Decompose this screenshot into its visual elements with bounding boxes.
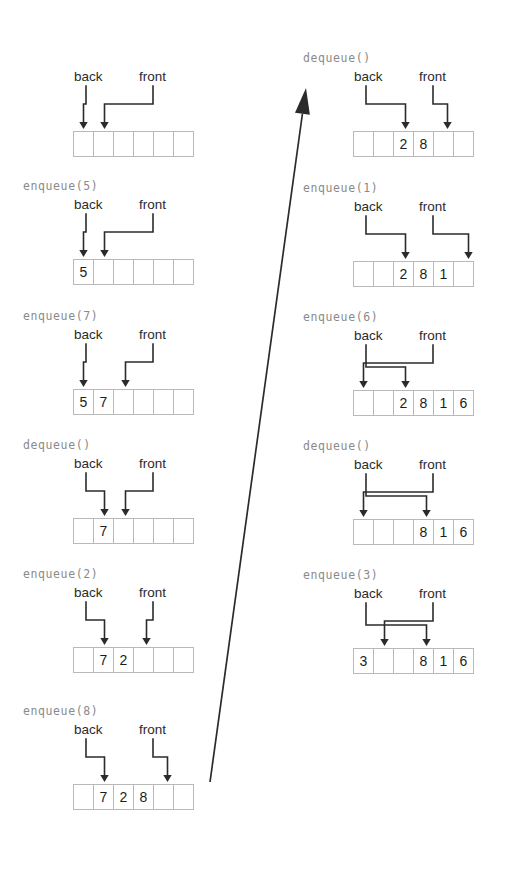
queue-cell <box>174 132 194 157</box>
queue-cell: 1 <box>434 391 454 416</box>
queue-cell: 2 <box>394 391 414 416</box>
queue-cell <box>394 649 414 674</box>
queue-cell <box>134 519 154 544</box>
queue-cell: 6 <box>454 649 474 674</box>
queue-cells: 3816 <box>353 648 474 674</box>
back-pointer-line <box>366 474 427 510</box>
queue-cell: 8 <box>414 520 434 545</box>
back-pointer-arrowhead <box>422 510 430 517</box>
queue-cell <box>134 132 154 157</box>
operation-label: enqueue(5) <box>23 179 98 193</box>
back-pointer-line <box>84 344 87 380</box>
back-pointer-label: back <box>74 722 103 737</box>
queue-cell <box>354 520 374 545</box>
front-pointer-label: front <box>139 327 166 342</box>
queue-cell: 8 <box>134 785 154 810</box>
queue-cell: 6 <box>454 520 474 545</box>
queue-cells: 5 <box>73 259 194 285</box>
queue-cells: 7 <box>73 518 194 544</box>
queue-cell <box>174 390 194 415</box>
queue-cell <box>174 648 194 673</box>
front-pointer-line <box>105 214 154 250</box>
back-pointer-label: back <box>74 585 103 600</box>
queue-cell <box>154 132 174 157</box>
operation-label: enqueue(8) <box>23 704 98 718</box>
queue-cell: 3 <box>354 649 374 674</box>
back-pointer-label: back <box>354 328 383 343</box>
queue-cell: 1 <box>434 520 454 545</box>
queue-cell <box>394 520 414 545</box>
queue-cell: 8 <box>414 649 434 674</box>
front-pointer-line <box>364 345 434 381</box>
back-pointer-arrowhead <box>79 122 87 129</box>
queue-cell: 2 <box>114 785 134 810</box>
front-pointer-label: front <box>419 199 446 214</box>
front-pointer-line <box>153 739 168 775</box>
queue-cell <box>154 260 174 285</box>
queue-cell <box>94 132 114 157</box>
front-pointer-arrowhead <box>359 510 367 517</box>
queue-cell <box>74 785 94 810</box>
queue-cell <box>374 262 394 287</box>
front-pointer-arrowhead <box>443 122 451 129</box>
queue-cell: 2 <box>394 132 414 157</box>
operation-label: enqueue(3) <box>303 568 378 582</box>
back-pointer-label: back <box>354 199 383 214</box>
queue-cell <box>154 390 174 415</box>
back-pointer-label: back <box>74 327 103 342</box>
front-pointer-line <box>126 473 154 509</box>
back-pointer-arrowhead <box>79 250 87 257</box>
queue-cell <box>374 520 394 545</box>
front-pointer-label: front <box>139 69 166 84</box>
queue-cell <box>74 519 94 544</box>
front-pointer-line <box>433 86 448 122</box>
queue-cell <box>74 648 94 673</box>
front-pointer-line <box>147 602 154 638</box>
front-pointer-label: front <box>419 457 446 472</box>
queue-cells: 28 <box>353 131 474 157</box>
back-pointer-arrowhead <box>401 122 409 129</box>
front-pointer-label: front <box>139 585 166 600</box>
queue-cell <box>154 519 174 544</box>
queue-cells: 816 <box>353 519 474 545</box>
queue-cell: 1 <box>434 262 454 287</box>
queue-cell <box>134 648 154 673</box>
front-pointer-label: front <box>419 586 446 601</box>
queue-cells <box>73 131 194 157</box>
back-pointer-label: back <box>354 457 383 472</box>
front-pointer-label: front <box>419 328 446 343</box>
back-pointer-label: back <box>74 69 103 84</box>
front-pointer-line <box>385 603 434 639</box>
front-pointer-arrowhead <box>100 122 108 129</box>
queue-cells: 728 <box>73 784 194 810</box>
back-pointer-arrowhead <box>100 509 108 516</box>
front-pointer-arrowhead <box>163 775 171 782</box>
operation-label: enqueue(7) <box>23 309 98 323</box>
continuation-arrow-head <box>295 88 310 115</box>
queue-cell: 8 <box>414 262 434 287</box>
queue-cell <box>174 260 194 285</box>
queue-cell <box>354 262 374 287</box>
front-pointer-arrowhead <box>142 638 150 645</box>
queue-cells: 72 <box>73 647 194 673</box>
queue-cell <box>114 519 134 544</box>
back-pointer-label: back <box>354 69 383 84</box>
back-pointer-line <box>86 739 105 775</box>
front-pointer-arrowhead <box>100 250 108 257</box>
back-pointer-label: back <box>74 197 103 212</box>
operation-label: enqueue(6) <box>303 310 378 324</box>
back-pointer-arrowhead <box>100 638 108 645</box>
queue-cell: 7 <box>94 390 114 415</box>
front-pointer-label: front <box>139 722 166 737</box>
queue-cell <box>154 785 174 810</box>
back-pointer-arrowhead <box>401 381 409 388</box>
queue-cells: 2816 <box>353 390 474 416</box>
back-pointer-line <box>86 473 105 509</box>
queue-cell: 2 <box>394 262 414 287</box>
queue-cells: 57 <box>73 389 194 415</box>
front-pointer-arrowhead <box>121 380 129 387</box>
operation-label: dequeue() <box>303 439 371 453</box>
back-pointer-arrowhead <box>422 639 430 646</box>
circular-queue-figure: backfrontenqueue(5)backfront5enqueue(7)b… <box>0 0 526 870</box>
queue-cell: 6 <box>454 391 474 416</box>
